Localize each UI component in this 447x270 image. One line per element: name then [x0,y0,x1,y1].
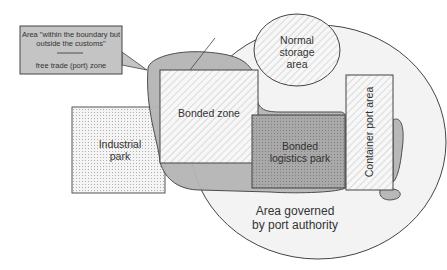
callout-zone-label: free trade (port) zone [20,61,122,70]
industrial-park-label: Industrial park [90,138,150,162]
callout-pointer [122,52,147,70]
port-authority-label: Area governed by port authority [240,204,350,232]
normal-storage-label: Normal storage area [254,34,340,70]
port-authority-line-2: by port authority [240,218,350,232]
normal-storage-line-1: Normal [254,34,340,46]
callout-line-2: outside the customs" [20,39,122,48]
bonded-zone-label: Bonded zone [160,107,258,119]
free-trade-zone-diagram: Area "within the boundary but outside th… [0,0,447,270]
bonded-logistics-line-2: logistics park [262,152,338,164]
normal-storage-line-2: storage [254,46,340,58]
bonded-logistics-label: Bonded logistics park [262,140,338,164]
port-authority-line-1: Area governed [240,204,350,218]
normal-storage-line-3: area [254,58,340,70]
bonded-logistics-line-1: Bonded [262,140,338,152]
container-port-label: Container port area [363,77,375,187]
industrial-park-line-2: park [90,150,150,162]
callout-line-1: Area "within the boundary but [20,30,122,39]
callout-label: Area "within the boundary but outside th… [20,30,122,48]
industrial-park-line-1: Industrial [90,138,150,150]
